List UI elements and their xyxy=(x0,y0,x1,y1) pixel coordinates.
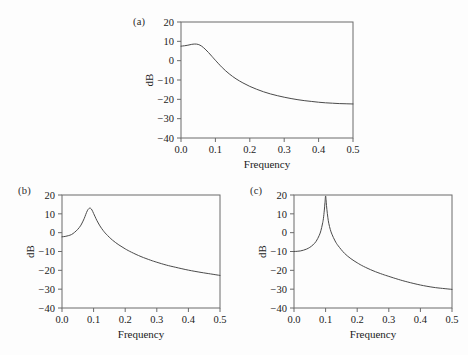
svg-text:−20: −20 xyxy=(158,94,174,105)
svg-text:10: 10 xyxy=(45,209,56,220)
svg-text:0.2: 0.2 xyxy=(351,314,364,325)
svg-text:dB: dB xyxy=(24,245,36,258)
panel-c: (c) 0.00.10.20.30.40.5−40−30−20−1001020F… xyxy=(238,183,464,353)
svg-text:0.4: 0.4 xyxy=(414,314,428,325)
svg-text:0.3: 0.3 xyxy=(150,314,163,325)
svg-text:0.2: 0.2 xyxy=(243,144,256,155)
svg-text:−40: −40 xyxy=(158,133,174,144)
svg-text:0.5: 0.5 xyxy=(213,314,226,325)
panel-b: (b) 0.00.10.20.30.40.5−40−30−20−1001020F… xyxy=(10,183,232,353)
svg-text:0: 0 xyxy=(169,55,174,66)
svg-text:−30: −30 xyxy=(271,284,287,295)
svg-text:−20: −20 xyxy=(39,265,55,276)
panel-b-tag: (b) xyxy=(18,185,31,196)
svg-text:20: 20 xyxy=(45,190,56,201)
svg-text:0.2: 0.2 xyxy=(119,314,132,325)
svg-text:−30: −30 xyxy=(158,113,174,124)
svg-text:0.4: 0.4 xyxy=(182,314,196,325)
svg-text:10: 10 xyxy=(164,36,175,47)
figure-container: (a) 0.00.10.20.30.40.5−40−30−20−1001020F… xyxy=(0,0,468,355)
svg-text:0.0: 0.0 xyxy=(174,144,187,155)
svg-text:dB: dB xyxy=(256,245,268,258)
svg-text:dB: dB xyxy=(143,74,155,87)
svg-text:−40: −40 xyxy=(271,303,287,314)
svg-text:Frequency: Frequency xyxy=(350,328,397,340)
svg-text:Frequency: Frequency xyxy=(244,158,291,170)
panel-a-tag: (a) xyxy=(133,16,145,27)
panel-a: (a) 0.00.10.20.30.40.5−40−30−20−1001020F… xyxy=(125,8,365,173)
svg-text:0.0: 0.0 xyxy=(55,314,68,325)
svg-text:0: 0 xyxy=(50,227,55,238)
svg-text:0.4: 0.4 xyxy=(312,144,326,155)
svg-text:0.1: 0.1 xyxy=(209,144,222,155)
svg-text:0.3: 0.3 xyxy=(382,314,395,325)
svg-text:20: 20 xyxy=(164,17,175,28)
svg-text:−20: −20 xyxy=(271,265,287,276)
svg-text:10: 10 xyxy=(277,209,288,220)
svg-text:−10: −10 xyxy=(158,75,174,86)
svg-text:0.5: 0.5 xyxy=(445,314,458,325)
svg-text:−10: −10 xyxy=(271,246,287,257)
panel-c-plot: 0.00.10.20.30.40.5−40−30−20−1001020Frequ… xyxy=(238,183,464,353)
panel-c-tag: (c) xyxy=(250,185,262,196)
panel-a-plot: 0.00.10.20.30.40.5−40−30−20−1001020Frequ… xyxy=(125,8,365,173)
panel-b-plot: 0.00.10.20.30.40.5−40−30−20−1001020Frequ… xyxy=(10,183,232,353)
svg-text:0: 0 xyxy=(282,227,287,238)
svg-text:20: 20 xyxy=(277,190,288,201)
svg-text:0.5: 0.5 xyxy=(346,144,359,155)
svg-text:−10: −10 xyxy=(39,246,55,257)
svg-text:−30: −30 xyxy=(39,284,55,295)
svg-text:0.3: 0.3 xyxy=(278,144,291,155)
svg-text:0.1: 0.1 xyxy=(87,314,100,325)
svg-text:0.0: 0.0 xyxy=(287,314,300,325)
svg-text:Frequency: Frequency xyxy=(118,328,165,340)
svg-text:0.1: 0.1 xyxy=(319,314,332,325)
svg-text:−40: −40 xyxy=(39,303,55,314)
